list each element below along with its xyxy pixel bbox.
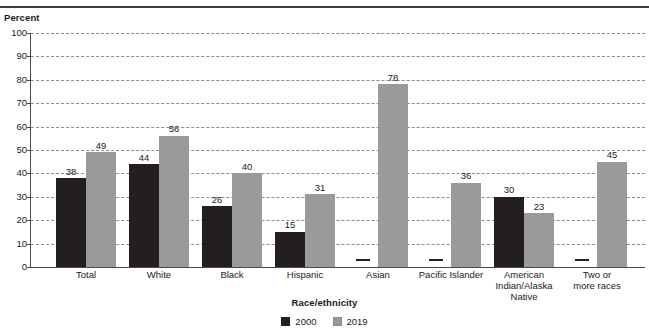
bar-value-label: 44 — [124, 153, 164, 163]
y-axis-tick-label: 80 — [3, 75, 27, 85]
bar-value-label: 49 — [81, 141, 121, 151]
bar-2019-pacific-islander — [451, 183, 481, 267]
y-axis-tick-label: 10 — [3, 239, 27, 249]
y-axis-tick-label: 100 — [3, 28, 27, 38]
legend-item[interactable]: 2000 — [281, 316, 316, 327]
bar-group: 3849Total — [56, 33, 116, 267]
bar-2000-hispanic — [275, 232, 305, 267]
bar-value-label: 38 — [51, 167, 91, 177]
bar-2019-white — [159, 136, 189, 267]
bar-2019-hispanic — [305, 194, 335, 267]
bar-value-label: 26 — [197, 195, 237, 205]
bar-value-label: 40 — [227, 162, 267, 172]
legend-item[interactable]: 2019 — [333, 316, 368, 327]
legend-label: 2019 — [347, 316, 368, 327]
bar-group: 78Asian — [348, 33, 408, 267]
legend-swatch-icon — [333, 317, 342, 326]
bar-2019-total — [86, 152, 116, 267]
bar-group: 1531Hispanic — [275, 33, 335, 267]
y-axis-tick-label: 30 — [3, 192, 27, 202]
x-axis-category-label: Two ormore races — [549, 269, 645, 291]
bar-group: 4456White — [129, 33, 189, 267]
y-axis-tick-labels: 1009080706050403020100 — [0, 0, 27, 332]
bar-2000-black — [202, 206, 232, 267]
missing-data-dash — [429, 259, 443, 261]
bar-2019-two-or-more-races — [597, 162, 627, 267]
missing-data-dash — [356, 259, 370, 261]
x-axis-line — [31, 267, 645, 268]
legend-label: 2000 — [295, 316, 316, 327]
bar-value-label: 15 — [270, 220, 310, 230]
bar-2019-asian — [378, 84, 408, 267]
y-axis-tick-label: 70 — [3, 98, 27, 108]
bar-value-label: 36 — [446, 171, 486, 181]
missing-data-dash — [575, 259, 589, 261]
chart-legend: 20002019 — [0, 316, 649, 327]
bar-value-label: 78 — [373, 73, 413, 83]
bar-value-label: 31 — [300, 183, 340, 193]
bar-2000-total — [56, 178, 86, 267]
y-axis-tick-label: 40 — [3, 168, 27, 178]
y-axis-tick-label: 50 — [3, 145, 27, 155]
legend-swatch-icon — [281, 317, 290, 326]
bar-2000-white — [129, 164, 159, 267]
y-axis-tick-label: 20 — [3, 215, 27, 225]
y-axis-tick-label: 60 — [3, 122, 27, 132]
x-axis-title: Race/ethnicity — [0, 297, 649, 308]
bar-2019-black — [232, 173, 262, 267]
y-axis-tick-label: 0 — [3, 262, 27, 272]
bar-group: 3023AmericanIndian/AlaskaNative — [494, 33, 554, 267]
bar-value-label: 45 — [592, 150, 632, 160]
bar-value-label: 30 — [489, 185, 529, 195]
y-axis-tick-label: 90 — [3, 51, 27, 61]
bar-group: 45Two ormore races — [567, 33, 627, 267]
plot-area: 3849Total4456White2640Black1531Hispanic7… — [31, 33, 645, 267]
bar-group: 36Pacific Islander — [421, 33, 481, 267]
bar-value-label: 23 — [519, 202, 559, 212]
bar-value-label: 56 — [154, 124, 194, 134]
bar-2019-american-indian-alaska-native — [524, 213, 554, 267]
bar-group: 2640Black — [202, 33, 262, 267]
header-rule — [0, 6, 649, 8]
